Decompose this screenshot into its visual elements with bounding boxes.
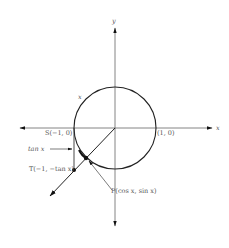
radial-line [50, 128, 115, 196]
arc-label: x [78, 94, 82, 101]
label-T: T(−1, −tan x) [29, 166, 74, 173]
x-axis-label: x [216, 125, 220, 132]
p-pointer-line [89, 161, 112, 190]
unit-circle-diagram [0, 0, 229, 248]
label-one-zero: (1, 0) [157, 130, 174, 137]
label-P: P(cos x, sin x) [111, 188, 157, 195]
label-tan-x: tan x [28, 146, 44, 153]
label-S: S(−1, 0) [45, 130, 72, 137]
point-P [84, 156, 88, 160]
y-axis-label: y [112, 18, 116, 25]
